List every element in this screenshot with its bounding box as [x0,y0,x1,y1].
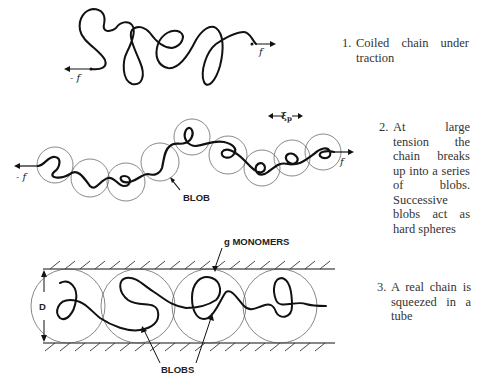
caption-1: 1. Coiled chain under traction [356,36,469,65]
caption-number-2: 2. [379,120,388,135]
diameter-label: D [39,301,46,312]
panel-1-coiled-chain [64,9,276,85]
blob-label: BLOB [183,192,210,203]
xi-p-label: ξp [281,110,292,123]
force-label-left-1: - f [70,72,83,83]
panel-3-tube [31,248,335,363]
caption-number-1: 1. [342,36,351,51]
caption-text-3: A real chain is squeezed in a tube [391,280,471,323]
force-label-right-2: f [339,156,346,167]
force-label-left-2: - f [16,171,29,182]
caption-number-3: 3. [377,280,386,295]
panel-2-blob-chain [14,113,354,201]
caption-3: 3. A real chain is squeezed in a tube [391,280,471,324]
force-label-right-1: f [258,46,265,57]
caption-2: 2. At large tension the chain breaks up … [393,120,470,236]
monomers-label: g MONOMERS [224,236,289,247]
blobs-label: BLOBS [161,364,194,375]
caption-text-1: Coiled chain under traction [356,36,469,65]
blob-circles [37,119,341,201]
caption-text-2: At large tension the chain breaks up int… [393,120,470,236]
